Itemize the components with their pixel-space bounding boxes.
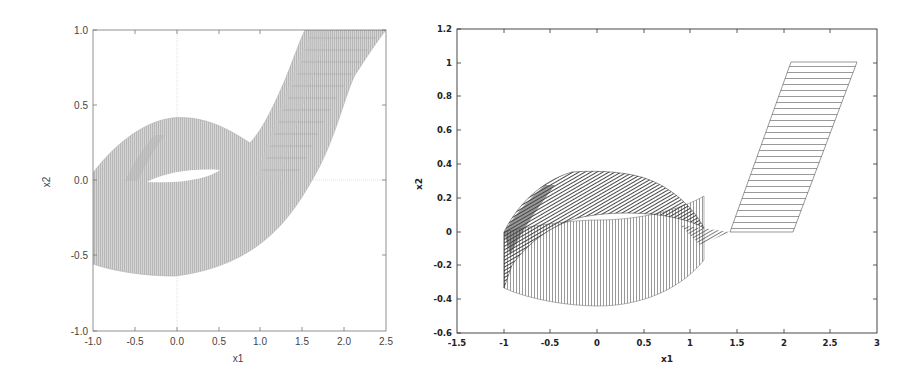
left-ytick: 0.0 — [74, 175, 88, 186]
left-xtick: 1.0 — [253, 336, 267, 347]
right-ytick: 0.4 — [437, 159, 452, 169]
right-x-tick-labels: -1.5 -1 -0.5 0 0.5 1 1.5 2 2.5 3 — [448, 338, 880, 348]
left-xtick: 2.0 — [337, 336, 351, 347]
right-ytick: 0.6 — [437, 125, 452, 135]
left-xtick: 1.5 — [295, 336, 309, 347]
right-y-axis-label: x2 — [414, 178, 424, 190]
right-ytick: 1 — [446, 58, 452, 68]
right-xtick: -1.5 — [448, 338, 467, 348]
right-ytick: 0 — [446, 227, 452, 237]
right-xtick: 0.5 — [636, 338, 651, 348]
right-plot: 1.2 1 0.8 0.6 0.4 0.2 0 -0.2 -0.4 -0.6 -… — [414, 24, 880, 364]
right-ytick: 1.2 — [437, 24, 452, 34]
left-xtick: 2.5 — [379, 336, 393, 347]
right-x-axis-label: x1 — [661, 354, 673, 364]
right-xtick: 0 — [594, 338, 600, 348]
right-ytick: 0.2 — [437, 193, 452, 203]
left-ytick: 0.5 — [74, 100, 88, 111]
left-y-tick-labels: 1.0 0.5 0.0 -0.5 -1.0 — [71, 25, 89, 337]
right-xtick: -1 — [499, 338, 509, 348]
figure: 1.0 0.5 0.0 -0.5 -1.0 -1.0 -0.5 0.0 0.5 … — [0, 0, 918, 385]
left-xtick: 0.0 — [170, 336, 184, 347]
left-ytick: 1.0 — [74, 25, 88, 36]
left-xtick: -1.0 — [84, 336, 102, 347]
right-xtick: 1.5 — [729, 338, 744, 348]
right-ytick: -0.2 — [433, 260, 452, 270]
right-swept-region — [504, 62, 857, 306]
left-xtick: -0.5 — [126, 336, 144, 347]
right-ytick: -0.6 — [433, 328, 452, 338]
right-ytick: 0.8 — [437, 91, 452, 101]
right-xtick: 3 — [874, 338, 880, 348]
left-ytick: -0.5 — [71, 250, 89, 261]
left-xtick: 0.5 — [212, 336, 226, 347]
left-x-tick-labels: -1.0 -0.5 0.0 0.5 1.0 1.5 2.0 2.5 — [84, 336, 393, 347]
right-xtick: 2 — [781, 338, 787, 348]
right-xtick: 2.5 — [822, 338, 837, 348]
left-swept-region — [93, 30, 386, 276]
right-xtick: -0.5 — [541, 338, 560, 348]
right-y-tick-labels: 1.2 1 0.8 0.6 0.4 0.2 0 -0.2 -0.4 -0.6 — [433, 24, 452, 338]
left-x-axis-label: x1 — [233, 353, 244, 364]
right-xtick: 1 — [687, 338, 693, 348]
right-ytick: -0.4 — [433, 294, 452, 304]
left-plot: 1.0 0.5 0.0 -0.5 -1.0 -1.0 -0.5 0.0 0.5 … — [41, 25, 393, 364]
left-y-axis-label: x2 — [41, 176, 52, 187]
